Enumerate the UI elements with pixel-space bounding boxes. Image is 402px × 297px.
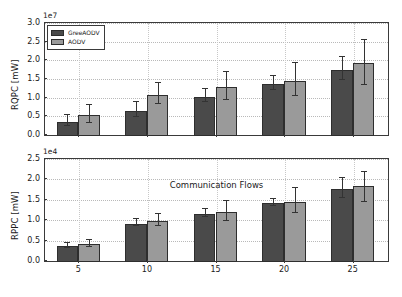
error-bar-cap: [339, 79, 345, 80]
y-tick-mark: [44, 134, 47, 135]
error-bar: [364, 39, 365, 84]
error-bar-cap: [361, 201, 367, 202]
x-tick-label-25: 25: [348, 265, 358, 274]
y-tick-label: 1.0: [27, 92, 40, 101]
error-bar-cap: [133, 218, 139, 219]
y-tick-mark: [44, 219, 47, 220]
y-tick-label: 0.0: [27, 130, 40, 139]
y-tick-label: 2.0: [27, 55, 40, 64]
error-bar-cap: [292, 95, 298, 96]
y-tick-label: 2.5: [27, 36, 40, 45]
error-bar: [158, 82, 159, 102]
error-bar-cap: [133, 116, 139, 117]
error-bar-cap: [202, 101, 208, 102]
error-bar-cap: [155, 103, 161, 104]
legend-label-greeaodv: GreeAODV: [68, 29, 100, 37]
x-tick-mark: [216, 134, 217, 137]
error-bar-cap: [292, 62, 298, 63]
x-tick-mark: [284, 260, 285, 263]
x-tick-label-20: 20: [279, 265, 289, 274]
x-tick-mark: [216, 260, 217, 263]
x-tick-label-10: 10: [142, 265, 152, 274]
y-tick-label: 0.5: [27, 111, 40, 120]
error-bar-cap: [270, 198, 276, 199]
error-bar-cap: [202, 216, 208, 217]
error-bar-cap: [339, 56, 345, 57]
error-bar: [226, 71, 227, 99]
y-tick-mark: [44, 260, 47, 261]
y-tick-label: 3.0: [27, 18, 40, 27]
error-bar-cap: [202, 88, 208, 89]
error-bar: [67, 114, 68, 125]
error-bar-cap: [339, 177, 345, 178]
y-tick-label: 1.5: [27, 194, 40, 203]
figure: 1e7 RQPC [mW] 0.00.51.01.52.02.53.0 Gree…: [0, 0, 402, 297]
error-bar: [342, 56, 343, 79]
legend-swatch-aodv: [51, 39, 64, 45]
error-bar-cap: [361, 84, 367, 85]
error-bar-cap: [339, 197, 345, 198]
error-bar-cap: [361, 39, 367, 40]
error-bar-cap: [223, 71, 229, 72]
y-tick-mark: [44, 115, 47, 116]
error-bar: [136, 218, 137, 225]
legend-item-greeaodv: GreeAODV: [51, 29, 100, 37]
legend-item-aodv: AODV: [51, 38, 100, 46]
bar-greeaodv-5: [57, 246, 79, 262]
y-tick-mark: [44, 97, 47, 98]
error-bar: [205, 88, 206, 101]
error-bar-cap: [64, 247, 70, 248]
y-tick-label: 0.0: [27, 256, 40, 265]
error-bar-cap: [270, 89, 276, 90]
error-bar-cap: [133, 101, 139, 102]
error-bar-cap: [292, 212, 298, 213]
y-tick-mark: [44, 199, 47, 200]
x-tick-mark: [78, 260, 79, 263]
y-exponent-top: 1e7: [43, 11, 57, 20]
bar-greeaodv-15: [194, 214, 216, 262]
error-bar-cap: [223, 220, 229, 221]
error-bar: [136, 101, 137, 117]
error-bar: [273, 198, 274, 205]
error-bar-cap: [202, 208, 208, 209]
subplot-rqpc: 1e7 RQPC [mW] 0.00.51.01.52.02.53.0 Gree…: [44, 22, 389, 136]
y-tick-label: 2.5: [27, 154, 40, 163]
error-bar-cap: [133, 225, 139, 226]
error-bar-cap: [86, 122, 92, 123]
bar-aodv-5: [78, 244, 100, 262]
y-tick-label: 1.5: [27, 74, 40, 83]
bar-greeaodv-25: [331, 189, 353, 262]
y-tick-mark: [44, 158, 47, 159]
x-tick-mark: [353, 260, 354, 263]
bar-aodv-10: [147, 221, 169, 262]
y-axis-label-rppc: RPPC [mW]: [10, 191, 20, 240]
error-bar: [89, 104, 90, 122]
error-bar: [205, 208, 206, 216]
x-tick-mark: [284, 134, 285, 137]
error-bar-cap: [361, 171, 367, 172]
y-tick-mark: [44, 240, 47, 241]
error-bar-cap: [155, 225, 161, 226]
error-bar: [158, 213, 159, 224]
error-bar-cap: [64, 114, 70, 115]
error-bar-cap: [270, 205, 276, 206]
legend-swatch-greeaodv: [51, 30, 64, 36]
error-bar-cap: [155, 213, 161, 214]
x-tick-mark: [78, 134, 79, 137]
y-tick-label: 1.0: [27, 215, 40, 224]
y-tick-mark: [44, 22, 47, 23]
error-bar-cap: [223, 99, 229, 100]
legend-label-aodv: AODV: [68, 38, 85, 46]
bar-greeaodv-20: [262, 84, 284, 136]
error-bar: [273, 75, 274, 88]
x-tick-label-15: 15: [210, 265, 220, 274]
error-bar: [295, 187, 296, 212]
x-tick-label-5: 5: [76, 265, 81, 274]
x-tick-mark: [147, 134, 148, 137]
error-bar-cap: [64, 125, 70, 126]
x-axis-label: Communication Flows: [44, 180, 389, 190]
y-tick-mark: [44, 78, 47, 79]
bar-greeaodv-10: [125, 224, 147, 262]
subplot-rppc: 1e4 RPPC [mW] 0.00.51.01.52.02.5 5101520…: [44, 158, 389, 262]
error-bar-cap: [86, 239, 92, 240]
